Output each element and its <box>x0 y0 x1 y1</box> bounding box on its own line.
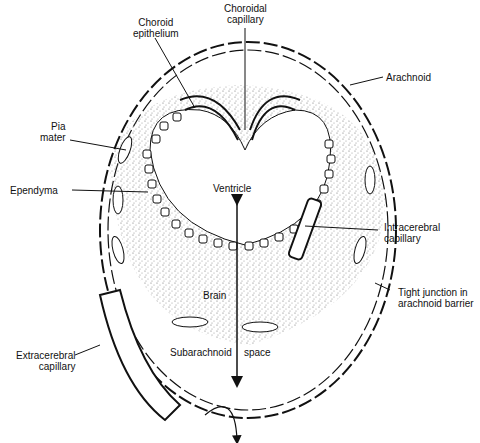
label-line: capillary <box>384 233 440 244</box>
label-extracerebral-capillary: Extracerebral capillary <box>16 350 75 372</box>
label-line: capillary <box>16 361 75 372</box>
label-line: Extracerebral <box>16 350 75 361</box>
label-line: arachnoid barrier <box>398 298 474 309</box>
label-line: Pia <box>40 121 66 132</box>
label-brain: Brain <box>203 290 226 301</box>
label-choroid-epithelium: Choroid epithelium <box>133 17 179 39</box>
label-tight-junction: Tight junction in arachnoid barrier <box>398 287 474 309</box>
label-line: epithelium <box>133 28 179 39</box>
label-line: mater <box>40 132 66 143</box>
label-intracerebral-capillary: Intracerebral capillary <box>384 222 440 244</box>
label-pia-mater: Pia mater <box>40 121 66 143</box>
label-line: Choroid <box>133 17 179 28</box>
label-arachnoid: Arachnoid <box>386 72 431 83</box>
label-line: Tight junction in <box>398 287 474 298</box>
label-ependyma: Ependyma <box>10 185 58 196</box>
label-line: capillary <box>224 14 267 25</box>
label-ventricle: Ventricle <box>213 183 251 194</box>
label-choroidal-capillary: Choroidal capillary <box>224 3 267 25</box>
bottom-arrow <box>205 407 237 440</box>
label-line: Choroidal <box>224 3 267 14</box>
label-space: space <box>244 347 271 358</box>
label-line: Intracerebral <box>384 222 440 233</box>
label-subarachnoid: Subarachnoid <box>170 347 232 358</box>
